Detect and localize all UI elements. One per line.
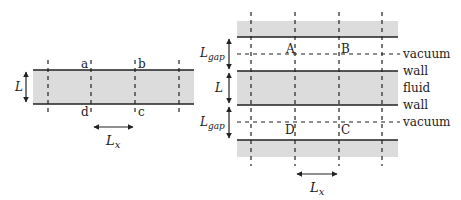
lower-gap-label: Lgap: [199, 115, 225, 131]
periodic-cell-diagram: a b d c L Lx A B D C: [0, 0, 461, 200]
fluid-region: [33, 70, 194, 104]
corner-label-C: C: [341, 123, 350, 137]
corner-label-d: d: [81, 105, 89, 119]
region-label-vacuum-top: vacuum: [402, 47, 451, 61]
region-label-vacuum-bottom: vacuum: [402, 115, 451, 129]
region-label-wall-bottom: wall: [403, 98, 428, 112]
upper-gap-label: Lgap: [199, 46, 225, 62]
region-labels: vacuum wall fluid wall vacuum: [402, 47, 451, 129]
corner-label-D: D: [285, 123, 295, 137]
region-label-wall-top: wall: [403, 64, 428, 78]
corner-label-B: B: [341, 42, 350, 56]
height-label: L: [214, 81, 223, 95]
period-label: Lx: [105, 133, 121, 150]
height-label: L: [14, 80, 23, 94]
fluid-region: [237, 71, 398, 105]
left-diagram: a b d c L Lx: [14, 57, 194, 150]
right-diagram: A B D C Lgap L Lgap Lx vacuum wall fluid…: [199, 12, 451, 197]
period-label: Lx: [309, 180, 325, 197]
corner-label-a: a: [81, 57, 88, 71]
corner-label-c: c: [138, 105, 145, 119]
upper-image-fluid: [237, 21, 398, 37]
corner-label-b: b: [138, 57, 146, 71]
region-label-fluid: fluid: [403, 81, 431, 95]
corner-label-A: A: [285, 42, 295, 56]
lower-image-fluid: [237, 140, 398, 157]
